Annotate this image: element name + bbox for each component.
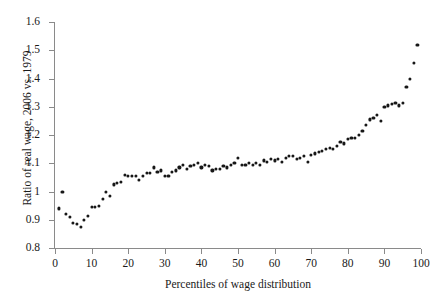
y-tick: 1 bbox=[49, 192, 55, 193]
data-point bbox=[401, 101, 404, 104]
data-point bbox=[310, 153, 313, 156]
x-tick bbox=[311, 249, 312, 254]
data-point bbox=[200, 166, 203, 169]
data-point bbox=[321, 149, 324, 152]
data-point bbox=[156, 170, 159, 173]
data-point bbox=[167, 174, 170, 177]
data-point bbox=[291, 155, 294, 158]
x-tick-label: 60 bbox=[269, 256, 281, 271]
data-point bbox=[390, 102, 393, 105]
data-point bbox=[149, 172, 152, 175]
x-tick bbox=[421, 249, 422, 254]
data-point bbox=[61, 190, 64, 193]
data-point bbox=[280, 160, 283, 163]
data-point bbox=[138, 179, 141, 182]
data-point bbox=[273, 159, 276, 162]
data-point bbox=[335, 145, 338, 148]
data-point bbox=[284, 156, 287, 159]
data-point bbox=[141, 174, 144, 177]
y-tick: 1.5 bbox=[49, 50, 55, 51]
x-tick-label: 80 bbox=[342, 256, 354, 271]
data-point bbox=[75, 222, 78, 225]
data-point bbox=[299, 156, 302, 159]
data-point bbox=[408, 77, 411, 80]
data-point bbox=[368, 118, 371, 121]
x-tick-label: 100 bbox=[412, 256, 429, 271]
data-point bbox=[171, 170, 174, 173]
data-point bbox=[251, 163, 254, 166]
y-tick-label: 0.9 bbox=[26, 212, 40, 227]
data-point bbox=[379, 119, 382, 122]
data-point bbox=[86, 214, 89, 217]
data-point bbox=[372, 116, 375, 119]
x-tick bbox=[201, 249, 202, 254]
x-tick bbox=[348, 249, 349, 254]
data-point bbox=[317, 150, 320, 153]
data-point bbox=[277, 157, 280, 160]
data-point bbox=[174, 169, 177, 172]
data-point bbox=[83, 218, 86, 221]
data-point bbox=[116, 181, 119, 184]
data-point bbox=[211, 169, 214, 172]
data-point bbox=[244, 163, 247, 166]
x-tick bbox=[128, 249, 129, 254]
y-tick: 1.3 bbox=[49, 107, 55, 108]
data-point bbox=[354, 136, 357, 139]
chart-figure: Ratio of real wage, 2006 vs. 1979 0.80.9… bbox=[0, 0, 442, 303]
data-point bbox=[134, 174, 137, 177]
plot-area: 0.80.911.11.21.31.41.51.6 01020304050607… bbox=[55, 22, 421, 248]
data-point bbox=[324, 148, 327, 151]
x-tick-label: 70 bbox=[305, 256, 317, 271]
y-tick: 1.1 bbox=[49, 163, 55, 164]
data-point bbox=[218, 167, 221, 170]
data-point bbox=[192, 163, 195, 166]
data-point bbox=[94, 205, 97, 208]
data-point bbox=[236, 156, 239, 159]
y-tick: 1.4 bbox=[49, 79, 55, 80]
data-point bbox=[182, 163, 185, 166]
x-tick bbox=[92, 249, 93, 254]
x-tick bbox=[275, 249, 276, 254]
data-point bbox=[313, 152, 316, 155]
y-tick-label: 1 bbox=[34, 184, 40, 199]
data-point bbox=[416, 43, 419, 46]
data-point bbox=[332, 148, 335, 151]
data-point bbox=[97, 204, 100, 207]
y-tick-label: 1.3 bbox=[26, 99, 40, 114]
data-point bbox=[365, 124, 368, 127]
data-point bbox=[233, 162, 236, 165]
y-tick-label: 1.6 bbox=[26, 14, 40, 29]
data-point bbox=[258, 163, 261, 166]
data-point bbox=[346, 138, 349, 141]
data-point bbox=[119, 180, 122, 183]
data-point bbox=[361, 129, 364, 132]
data-point bbox=[412, 61, 415, 64]
data-point bbox=[189, 164, 192, 167]
data-point bbox=[375, 114, 378, 117]
data-point bbox=[105, 190, 108, 193]
x-tick bbox=[55, 249, 56, 254]
y-tick-label: 0.8 bbox=[26, 240, 40, 255]
data-point bbox=[101, 197, 104, 200]
data-point bbox=[160, 169, 163, 172]
y-tick-label: 1.2 bbox=[26, 127, 40, 142]
data-point bbox=[225, 166, 228, 169]
data-point bbox=[295, 157, 298, 160]
x-axis-title: Percentiles of wage distribution bbox=[55, 278, 421, 290]
data-point bbox=[112, 183, 115, 186]
x-tick bbox=[384, 249, 385, 254]
y-tick-label: 1.4 bbox=[26, 71, 40, 86]
data-point bbox=[108, 194, 111, 197]
y-tick: 1.6 bbox=[49, 22, 55, 23]
x-tick-label: 20 bbox=[122, 256, 134, 271]
y-tick-label: 1.5 bbox=[26, 42, 40, 57]
data-point bbox=[79, 225, 82, 228]
data-point bbox=[64, 213, 67, 216]
y-tick-label: 1.1 bbox=[26, 155, 40, 170]
data-point bbox=[196, 162, 199, 165]
x-tick-label: 0 bbox=[52, 256, 58, 271]
x-tick-label: 90 bbox=[379, 256, 391, 271]
data-point bbox=[207, 164, 210, 167]
data-point bbox=[357, 133, 360, 136]
data-point bbox=[178, 166, 181, 169]
